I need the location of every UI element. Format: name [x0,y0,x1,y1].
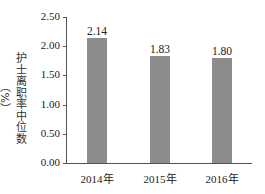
y-tick-label: 1.00 [28,99,60,110]
y-tick-label: 1.50 [28,69,60,80]
y-tick [63,105,66,106]
y-tick [63,46,66,47]
bar-value-label: 2.14 [77,25,117,37]
bar-value-label: 1.80 [202,45,242,57]
x-tick-label: 2016年 [197,170,247,186]
y-tick-label: 2.50 [28,11,60,22]
x-axis-line [66,163,252,164]
x-tick-label: 2015年 [135,170,185,186]
y-tick [63,17,66,18]
y-tick-label: 0.50 [28,128,60,139]
bar-chart: 护士离职率中位数（%） 0.000.501.001.502.002.50 2.1… [0,0,265,194]
y-axis-line [66,17,67,163]
y-axis-label: 护士离职率中位数（%） [12,38,28,158]
bar-2015年 [150,56,170,163]
bar-value-label: 1.83 [140,43,180,55]
y-tick [63,134,66,135]
y-tick-label: 2.00 [28,40,60,51]
y-tick [63,163,66,164]
bar-2014年 [87,38,107,163]
x-tick-label: 2014年 [72,170,122,186]
y-tick [63,75,66,76]
y-tick-label: 0.00 [28,157,60,168]
bar-2016年 [212,58,232,163]
